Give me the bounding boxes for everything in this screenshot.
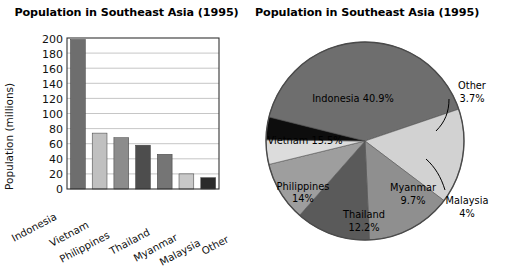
bar-chart-panel: Population in Southeast Asia (1995) Popu… [0, 0, 253, 273]
svg-text:0: 0 [56, 183, 63, 196]
svg-text:60: 60 [49, 138, 63, 151]
bar-malaysia [179, 174, 194, 189]
pie-label-philippines-name: Philippines [277, 181, 330, 192]
bar-indonesia [71, 40, 86, 190]
pie-label-other-pct: 3.7% [460, 93, 485, 104]
svg-text:140: 140 [42, 78, 63, 91]
svg-text:80: 80 [49, 123, 63, 136]
bar-thailand [136, 145, 151, 189]
svg-text:120: 120 [42, 93, 63, 106]
pie-label-other-name: Other [458, 80, 487, 91]
svg-text:160: 160 [42, 63, 63, 76]
pie-label-myanmar-name: Myanmar [390, 182, 437, 193]
bar-other [201, 178, 216, 189]
svg-text:200: 200 [42, 33, 63, 46]
svg-text:40: 40 [49, 153, 63, 166]
svg-text:180: 180 [42, 48, 63, 61]
pie-label-malaysia-pct: 4% [459, 208, 475, 219]
pie-label-vietnam: Vietnam 15.5% [267, 135, 342, 146]
pie-chart-svg: Indonesia 40.9% Vietnam 15.5% Philippine… [253, 0, 506, 273]
pie-label-philippines-pct: 14% [292, 193, 314, 204]
bar-chart-svg: Population (millions) 200 180 160 140 12… [0, 0, 253, 273]
charts-page: Population in Southeast Asia (1995) Popu… [0, 0, 506, 273]
svg-text:20: 20 [49, 168, 63, 181]
bar-myanmar [157, 154, 172, 189]
bar-y-tick-labels: 200 180 160 140 120 100 80 60 40 20 0 [42, 33, 63, 196]
svg-text:Other: Other [200, 233, 231, 257]
svg-text:100: 100 [42, 108, 63, 121]
pie-chart-panel: Population in Southeast Asia (1995) Indo… [253, 0, 506, 273]
bar-y-axis-title: Population (millions) [3, 83, 15, 190]
bar-plot-area [67, 38, 219, 189]
pie-label-indonesia: Indonesia 40.9% [312, 93, 394, 104]
pie-label-thailand-name: Thailand [342, 209, 385, 220]
bar-vietnam [92, 133, 107, 189]
bar-philippines [114, 138, 129, 189]
bar-category-labels: Indonesia Vietnam Philippines Thailand M… [10, 211, 231, 268]
pie-label-thailand-pct: 12.2% [348, 222, 379, 233]
pie-label-myanmar-pct: 9.7% [401, 195, 426, 206]
pie-label-malaysia-name: Malaysia [446, 195, 489, 206]
